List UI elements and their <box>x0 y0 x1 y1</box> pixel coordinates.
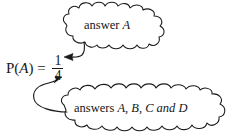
denominator-callout-pointer <box>34 80 67 112</box>
formula-p-label-close: ) <box>29 60 34 76</box>
formula-event-variable: A <box>19 60 28 76</box>
numerator-callout-prefix: answer <box>84 18 123 32</box>
formula-fraction: 1 4 <box>52 55 63 82</box>
formula-equals: = <box>37 60 45 76</box>
numerator-callout-variable: A <box>123 18 131 32</box>
probability-formula: P(A) = 1 4 <box>6 56 63 83</box>
denominator-callout-prefix: answers <box>74 101 117 115</box>
fraction-numerator: 1 <box>52 55 63 67</box>
denominator-callout-variables: A, B, C and D <box>117 101 187 115</box>
figure-canvas: P(A) = 1 4 answer A answers A, B, C and … <box>0 0 239 139</box>
numerator-arrowhead <box>64 54 73 61</box>
formula-p-label: P( <box>6 60 19 76</box>
fraction-denominator: 4 <box>52 69 63 82</box>
denominator-callout-label: answers A, B, C and D <box>74 102 188 115</box>
numerator-callout-label: answer A <box>84 19 130 32</box>
